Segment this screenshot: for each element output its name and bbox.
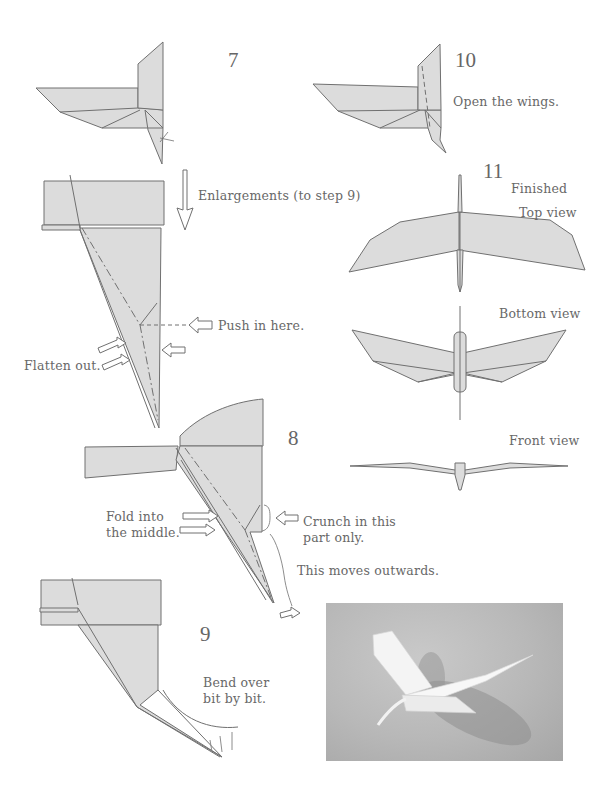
bottom-view-diagram (352, 306, 566, 420)
step-11-number: 11 (483, 159, 503, 184)
step10-diagram (313, 44, 446, 153)
step8-diagram (85, 399, 274, 603)
paper-bird-photo-subject (326, 603, 563, 761)
top-view-label: Top view (519, 205, 577, 221)
bottom-view-label: Bottom view (499, 306, 580, 322)
step-10-number: 10 (455, 48, 476, 73)
step7-diagram (36, 42, 174, 164)
flatten-out-label: Flatten out. (24, 358, 101, 374)
fold-into-label-2: the middle. (106, 525, 180, 541)
crunch-bracket (262, 505, 270, 531)
enlarge-down-arrow (177, 170, 193, 230)
front-view-label: Front view (509, 433, 579, 449)
outward-arrow (280, 607, 300, 618)
crunch-arrow (276, 511, 298, 525)
moves-bracket (270, 534, 292, 606)
step-7-number: 7 (228, 48, 239, 73)
open-wings-instruction: Open the wings. (453, 94, 559, 110)
crunch-label-2: part only. (303, 530, 364, 546)
push2-arrow (162, 343, 185, 357)
finished-model-photo (326, 603, 563, 761)
bend-over-label-1: Bend over (203, 675, 269, 691)
fold-arrow-2 (180, 524, 215, 536)
step-8-number: 8 (288, 426, 299, 451)
enlargement-diagram (42, 175, 188, 428)
bend-over-label-2: bit by bit. (203, 691, 266, 707)
fold-into-label-1: Fold into (106, 509, 164, 525)
push-in-label: Push in here. (218, 318, 304, 334)
front-view-diagram (350, 463, 568, 490)
step9-diagram (40, 578, 238, 757)
finished-label: Finished (511, 181, 567, 197)
step-9-number: 9 (200, 622, 211, 647)
push-arrow (189, 317, 212, 333)
crunch-label-1: Crunch in this (303, 514, 396, 530)
flatten-arrow-2 (102, 354, 130, 370)
enlargements-label: Enlargements (to step 9) (198, 188, 361, 204)
moves-outwards-label: This moves outwards. (297, 563, 439, 579)
